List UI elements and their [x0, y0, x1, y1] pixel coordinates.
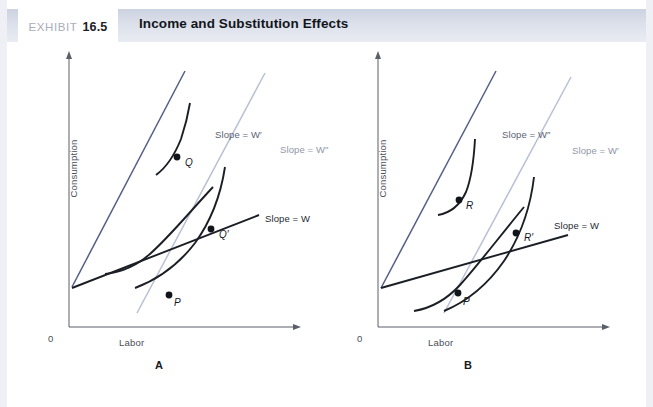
panel-a-origin-label: 0 [48, 333, 53, 344]
panel-a-slope-label-wprime: Slope = W′ [215, 129, 262, 140]
panel-a-point-label-q: Q [185, 157, 193, 168]
panel-a-slope-label-wdoubleprime: Slope = W″ [280, 144, 328, 155]
panel-b-new-wage-budget-line [381, 71, 496, 288]
exhibit-tag: EXHIBIT 16.5 [18, 9, 118, 45]
panel-a-point-label-p: P [174, 297, 181, 308]
panel-b-point-label-p: P [463, 296, 470, 307]
exhibit-page: EXHIBIT 16.5 Income and Substitution Eff… [0, 0, 653, 407]
panel-a-point-qprime-marker [208, 226, 215, 233]
panel-b-point-rprime-marker [513, 230, 520, 237]
panel-b-axes [375, 51, 610, 330]
panel-b-point-p-marker [455, 290, 462, 297]
page-edge-left [0, 0, 7, 407]
panel-a-point-q-marker [174, 154, 181, 161]
exhibit-title: Income and Substitution Effects [139, 16, 348, 31]
panel-a-letter: A [155, 359, 163, 371]
panel-a-axes [66, 51, 301, 330]
panel-b-x-axis-label: Labor [428, 337, 453, 348]
panel-a-x-axis-label: Labor [119, 337, 144, 348]
page-edge-right [646, 0, 653, 407]
panel-b-point-label-r: R [466, 200, 473, 211]
exhibit-number: 16.5 [82, 20, 107, 34]
panel-b-point-r-marker [456, 197, 463, 204]
panel-b-point-label-rprime: R′ [524, 232, 533, 243]
panel-b-slope-label-w: Slope = W [554, 220, 599, 231]
panel-b-y-axis-label: Consumption [377, 119, 388, 219]
panel-b-original-budget-line [381, 235, 568, 288]
panel-a-point-p-marker [166, 292, 173, 299]
chart-panel-a: Slope = W′ Slope = W″ Slope = W Q Q′ P C… [27, 45, 327, 385]
panel-a-slope-label-w: Slope = W [265, 213, 310, 224]
panel-b-compensated-budget-line [444, 77, 571, 313]
panel-b-origin-label: 0 [357, 333, 362, 344]
panel-b-letter: B [464, 359, 472, 371]
exhibit-word: EXHIBIT [28, 21, 77, 33]
exhibit-content: Slope = W′ Slope = W″ Slope = W Q Q′ P C… [18, 45, 635, 385]
panel-b-slope-label-wdoubleprime: Slope = W″ [502, 129, 550, 140]
chart-panel-b: Slope = W″ Slope = W′ Slope = W R R′ P C… [336, 45, 636, 385]
panel-a-original-budget-line [72, 215, 259, 288]
panel-b-slope-label-wprime: Slope = W′ [572, 145, 619, 156]
panel-a-y-axis-label: Consumption [68, 119, 79, 219]
exhibit-caption [30, 391, 630, 405]
panel-a-point-label-qprime: Q′ [219, 229, 229, 240]
